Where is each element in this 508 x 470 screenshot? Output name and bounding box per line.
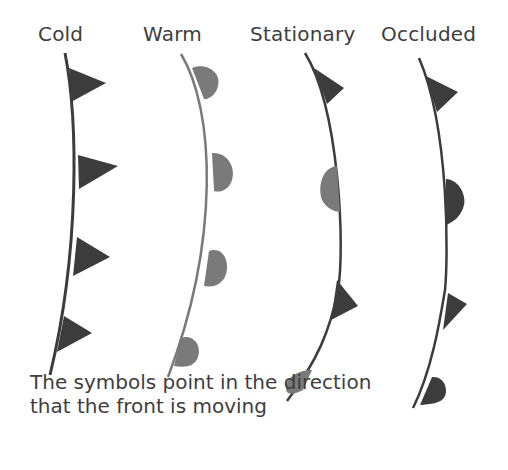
warm-semicircle-icon: [212, 153, 233, 192]
cold-triangle-icon: [78, 155, 118, 189]
stationary-triangle-icon: [331, 280, 358, 320]
caption: The symbols point in the direction that …: [30, 370, 371, 418]
warm-semicircle-icon: [174, 337, 199, 367]
warm-semicircle-icon: [204, 250, 227, 287]
warm-front: [168, 54, 233, 377]
caption-line-2: that the front is moving: [30, 394, 371, 418]
occluded-triangle-icon: [443, 293, 467, 330]
occluded-front: [413, 58, 467, 408]
cold-front: [50, 53, 118, 375]
occluded-front-line: [413, 58, 447, 408]
warm-front-line: [168, 54, 207, 377]
caption-line-1: The symbols point in the direction: [30, 370, 371, 394]
cold-triangle-icon: [69, 68, 106, 102]
stationary-front: [286, 53, 358, 401]
occluded-semicircle-icon: [446, 179, 464, 225]
cold-triangle-icon: [73, 237, 110, 276]
stationary-front-line: [287, 53, 341, 401]
stationary-semicircle-icon: [320, 166, 340, 212]
